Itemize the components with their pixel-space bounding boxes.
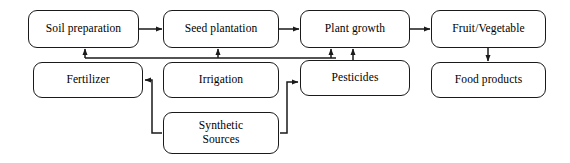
node-label: Synthetic Sources <box>195 119 247 146</box>
node-label: Fruit/Vegetable <box>448 22 528 36</box>
node-label: Soil preparation <box>42 22 125 36</box>
node-soil-preparation[interactable]: Soil preparation <box>28 10 139 48</box>
node-plant-growth[interactable]: Plant growth <box>300 10 410 48</box>
flowchart-canvas: Soil preparation Seed plantation Plant g… <box>0 0 570 163</box>
edge-synthetic-to-fertilizer <box>145 80 162 133</box>
node-synthetic-sources[interactable]: Synthetic Sources <box>163 112 279 154</box>
node-label: Pesticides <box>328 71 383 85</box>
node-food-products[interactable]: Food products <box>431 62 546 98</box>
node-label: Plant growth <box>321 22 389 36</box>
edge-synthetic-to-pesticides <box>280 82 298 133</box>
node-label: Food products <box>451 73 526 87</box>
node-fertilizer[interactable]: Fertilizer <box>33 62 143 98</box>
node-irrigation[interactable]: Irrigation <box>163 62 279 98</box>
node-fruit-vegetable[interactable]: Fruit/Vegetable <box>431 10 546 48</box>
node-pesticides[interactable]: Pesticides <box>300 60 410 96</box>
node-label: Seed plantation <box>181 22 262 36</box>
node-label: Irrigation <box>195 73 247 87</box>
node-label: Fertilizer <box>62 73 113 87</box>
node-seed-plantation[interactable]: Seed plantation <box>163 10 279 48</box>
